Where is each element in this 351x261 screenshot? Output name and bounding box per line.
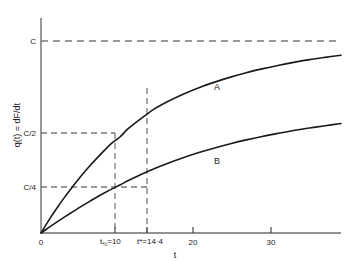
x-tick-label-0: 0 — [39, 238, 44, 247]
chart-svg: C C/2 C/4 0 t½=10 t*=14·4 20 30 t q(t) =… — [0, 0, 351, 261]
x-tick-label-t-half: t½=10 — [100, 237, 121, 247]
y-axis-title: q(t) = dF/dt — [12, 102, 22, 147]
x-tick-label-t-star: t*=14·4 — [137, 237, 164, 246]
curve-B — [41, 124, 341, 233]
y-tick-label-C-quarter: C/4 — [24, 183, 37, 192]
x-tick-label-30: 30 — [267, 238, 276, 247]
curve-label-B: B — [214, 156, 220, 166]
chart-container: C C/2 C/4 0 t½=10 t*=14·4 20 30 t q(t) =… — [0, 0, 351, 261]
x-axis-title: t — [174, 250, 177, 260]
x-tick-label-20: 20 — [189, 238, 198, 247]
y-tick-label-C: C — [30, 37, 36, 46]
y-tick-label-C-half: C/2 — [24, 129, 37, 138]
curve-A — [41, 55, 341, 233]
curve-label-A: A — [214, 82, 220, 92]
